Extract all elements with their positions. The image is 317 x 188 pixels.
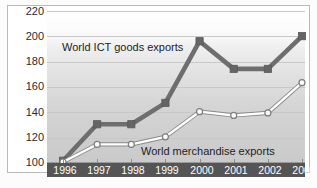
plot-area [47, 11, 305, 163]
y-tick-label: 180 [4, 56, 44, 67]
x-tick [131, 159, 132, 163]
data-point-merchandise-2000 [197, 109, 203, 115]
data-point-merchandise-1998 [128, 141, 134, 147]
y-tick-label: 200 [4, 31, 44, 42]
y-axis: 220 200 180 160 140 120 100 [0, 11, 44, 163]
data-point-merchandise-2003 [299, 80, 305, 86]
data-point-ict-2003 [298, 33, 305, 40]
x-axis-band: 1996 1997 1998 1999 2000 2001 2002 2003 [47, 163, 305, 177]
data-point-merchandise-2001 [231, 112, 237, 118]
data-point-merchandise-1999 [162, 134, 168, 140]
y-tick-label: 120 [4, 132, 44, 143]
data-point-merchandise-1997 [94, 141, 100, 147]
y-tick-label: 100 [4, 157, 44, 168]
series-layer [47, 11, 305, 163]
y-tick-label: 220 [4, 6, 44, 17]
x-tick-label-2001: 2001 [224, 164, 247, 176]
y-tick-label: 160 [4, 81, 44, 92]
x-tick-label-1999: 1999 [155, 164, 178, 176]
x-tick [302, 159, 303, 163]
x-tick [97, 159, 98, 163]
data-point-ict-1999 [162, 99, 169, 106]
x-tick-label-1996: 1996 [53, 164, 76, 176]
x-tick [200, 159, 201, 163]
x-tick-label-2002: 2002 [258, 164, 281, 176]
annotation-ict-goods-exports: World ICT goods exports [62, 41, 183, 53]
data-point-ict-2000 [196, 38, 203, 45]
data-point-ict-2001 [230, 65, 237, 72]
y-tick-label: 140 [4, 107, 44, 118]
data-point-ict-2002 [264, 65, 271, 72]
x-tick-label-1998: 1998 [121, 164, 144, 176]
x-tick [234, 159, 235, 163]
data-point-ict-1997 [94, 121, 101, 128]
x-tick-label-1997: 1997 [87, 164, 110, 176]
x-tick [268, 159, 269, 163]
data-point-merchandise-2002 [265, 110, 271, 116]
x-tick-label-2000: 2000 [190, 164, 213, 176]
x-tick [165, 159, 166, 163]
x-tick [63, 159, 64, 163]
x-tick-label-2003: 2003 [292, 164, 315, 176]
chart-figure: 220 200 180 160 140 120 100 1996 1997 19… [0, 0, 317, 188]
annotation-merchandise-exports: World merchandise exports [141, 145, 275, 157]
data-point-ict-1998 [128, 121, 135, 128]
